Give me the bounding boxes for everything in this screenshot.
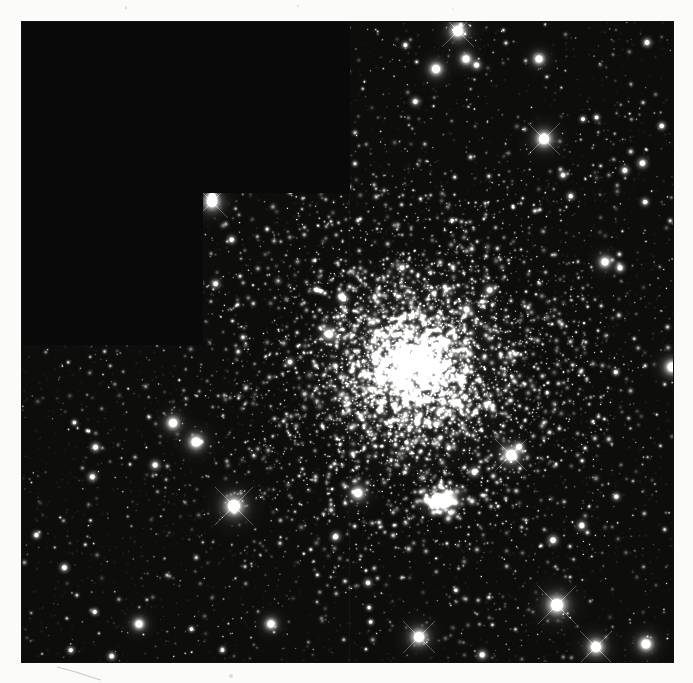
star-cluster-photograph bbox=[22, 22, 673, 662]
scanned-photo-page bbox=[0, 0, 693, 683]
